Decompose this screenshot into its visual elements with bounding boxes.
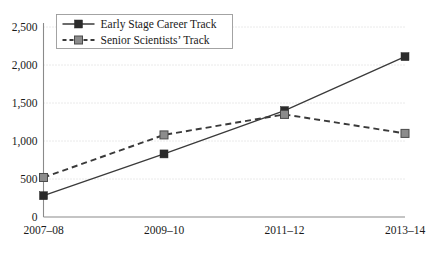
legend-label-1: Senior Scientists’ Track	[101, 34, 210, 46]
legend-label-0: Early Stage Career Track	[101, 18, 217, 31]
legend-marker-0	[75, 20, 83, 28]
data-point-marker	[40, 192, 48, 200]
data-point-marker	[40, 173, 48, 181]
gridlines	[44, 27, 406, 179]
chart-container: 05001,0001,5002,0002,500 2007–082009–102…	[0, 0, 429, 257]
x-tick-label: 2013–14	[385, 224, 426, 236]
data-point-marker	[281, 110, 289, 118]
y-tick-label: 1,000	[12, 135, 38, 148]
legend-marker-1	[75, 36, 83, 44]
x-tick-label: 2007–08	[23, 224, 64, 236]
x-tick-label: 2009–10	[144, 224, 185, 236]
data-point-marker	[401, 129, 409, 137]
series-line-1	[44, 114, 406, 177]
y-tick-label: 2,000	[12, 59, 38, 72]
y-axis-tick-labels: 05001,0001,5002,0002,500	[12, 21, 38, 223]
chart-legend: Early Stage Career TrackSenior Scientist…	[57, 15, 233, 49]
y-tick-label: 500	[20, 173, 38, 185]
y-tick-label: 1,500	[12, 97, 38, 110]
line-chart: 05001,0001,5002,0002,500 2007–082009–102…	[0, 0, 429, 257]
y-tick-label: 0	[32, 211, 38, 223]
x-tick-label: 2011–12	[265, 224, 305, 236]
series-line-0	[44, 57, 406, 196]
data-point-marker	[401, 53, 409, 61]
x-axis-tick-labels: 2007–082009–102011–122013–14	[23, 224, 425, 236]
data-point-marker	[160, 150, 168, 158]
data-series	[40, 53, 410, 200]
data-point-marker	[160, 131, 168, 139]
y-tick-label: 2,500	[12, 21, 38, 34]
chart-axes	[44, 23, 406, 217]
